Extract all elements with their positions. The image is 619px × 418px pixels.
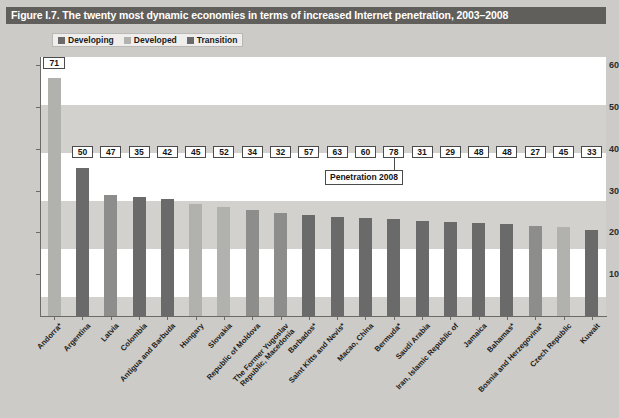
y-axis-tick-label: 10	[583, 269, 619, 279]
bar-5[interactable]	[161, 199, 174, 316]
value-box-16: 48	[468, 146, 489, 158]
x-axis-tick-mark	[167, 316, 168, 320]
value-box-20: 33	[581, 146, 602, 158]
x-axis-tick-mark	[252, 316, 253, 320]
figure-root: Figure I.7. The twenty most dynamic econ…	[0, 0, 619, 418]
legend-swatch-developed	[124, 37, 131, 44]
value-box-4: 35	[129, 146, 150, 158]
bar-10[interactable]	[302, 215, 315, 316]
legend-label-transition: Transition	[197, 36, 238, 45]
y-axis-tick-label: 50	[583, 102, 619, 112]
legend-swatch-developing	[58, 37, 65, 44]
y-axis-line	[40, 57, 41, 317]
bar-18[interactable]	[529, 226, 542, 316]
legend-item-developing: Developing	[58, 36, 114, 45]
x-axis-tick-mark	[309, 316, 310, 320]
bar-6[interactable]	[189, 204, 202, 316]
x-axis-tick-mark	[196, 316, 197, 320]
value-box-1: 71	[43, 57, 65, 69]
x-axis-tick-mark	[479, 316, 480, 320]
value-box-3: 47	[100, 146, 121, 158]
y-axis-tick-mark	[36, 191, 40, 192]
value-box-11: 63	[327, 146, 348, 158]
value-box-13: 78	[383, 146, 404, 158]
bar-12[interactable]	[359, 218, 372, 316]
legend-swatch-transition	[187, 37, 194, 44]
y-axis-tick-label: 30	[583, 186, 619, 196]
bars-layer	[40, 57, 606, 316]
bar-4[interactable]	[133, 197, 146, 316]
x-axis-tick-mark	[337, 316, 338, 320]
y-axis-tick-mark	[36, 149, 40, 150]
value-box-10: 57	[298, 146, 319, 158]
legend-item-transition: Transition	[187, 36, 238, 45]
y-axis-tick-mark	[36, 107, 40, 108]
value-box-8: 34	[242, 146, 263, 158]
legend-item-developed: Developed	[124, 36, 177, 45]
x-axis-tick-mark	[564, 316, 565, 320]
value-box-5: 42	[157, 146, 178, 158]
value-box-14: 31	[412, 146, 433, 158]
bar-9[interactable]	[274, 213, 287, 316]
value-box-18: 27	[525, 146, 546, 158]
chart-legend: Developing Developed Transition	[52, 33, 243, 47]
value-box-17: 48	[496, 146, 517, 158]
value-box-7: 52	[213, 146, 234, 158]
penetration-annotation: Penetration 2008	[325, 170, 403, 185]
x-axis-tick-mark	[394, 316, 395, 320]
y-axis-tick-mark	[36, 232, 40, 233]
x-axis-tick-mark	[422, 316, 423, 320]
x-axis-tick-mark	[365, 316, 366, 320]
value-box-19: 45	[553, 146, 574, 158]
value-box-6: 45	[185, 146, 206, 158]
bar-19[interactable]	[557, 227, 570, 316]
bar-7[interactable]	[217, 207, 230, 316]
x-axis-tick-mark	[111, 316, 112, 320]
bar-11[interactable]	[331, 217, 344, 316]
value-box-12: 60	[355, 146, 376, 158]
bar-17[interactable]	[500, 224, 513, 316]
x-axis-tick-mark	[450, 316, 451, 320]
y-axis-tick-label: 20	[583, 227, 619, 237]
y-axis-tick-label: 60	[583, 60, 619, 70]
bar-14[interactable]	[416, 221, 429, 316]
legend-label-developing: Developing	[68, 36, 114, 45]
y-axis-tick-mark	[36, 274, 40, 275]
value-box-2: 50	[72, 146, 93, 158]
bar-13[interactable]	[387, 219, 400, 316]
figure-title: Figure I.7. The twenty most dynamic econ…	[6, 7, 606, 24]
legend-label-developed: Developed	[134, 36, 177, 45]
bar-8[interactable]	[246, 210, 259, 316]
bar-3[interactable]	[104, 195, 117, 316]
x-axis-tick-mark	[139, 316, 140, 320]
x-axis-tick-mark	[507, 316, 508, 320]
x-axis-tick-mark	[82, 316, 83, 320]
value-box-9: 32	[270, 146, 291, 158]
x-axis-tick-mark	[224, 316, 225, 320]
x-axis-tick-mark	[54, 316, 55, 320]
x-axis-line	[40, 316, 607, 317]
bar-15[interactable]	[444, 222, 457, 316]
plot-area	[40, 57, 606, 316]
bar-1[interactable]	[48, 78, 61, 316]
x-axis-label-7: Slovakia	[0, 322, 234, 418]
x-axis-tick-mark	[535, 316, 536, 320]
bar-2[interactable]	[76, 168, 89, 316]
x-axis-tick-mark	[281, 316, 282, 320]
value-box-15: 29	[440, 146, 461, 158]
bar-16[interactable]	[472, 223, 485, 316]
x-axis-tick-mark	[592, 316, 593, 320]
y-axis-tick-mark	[36, 65, 40, 66]
